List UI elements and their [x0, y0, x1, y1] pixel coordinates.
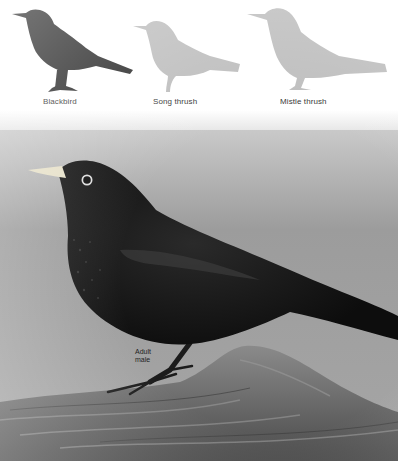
blackbird-silhouette [8, 0, 138, 95]
caption-line-2: male [135, 356, 151, 364]
field-guide-page: Blackbird Song thrush Mistle thrush [0, 0, 398, 461]
song-thrush-silhouette [130, 0, 245, 100]
mistle-thrush-silhouette [245, 0, 395, 100]
mistle-thrush-label: Mistle thrush [280, 97, 327, 106]
blackbird-label: Blackbird [43, 97, 77, 106]
blackbird-photo [0, 130, 398, 461]
caption-line-1: Adult [135, 348, 151, 356]
song-thrush-label: Song thrush [153, 97, 197, 106]
photo-caption: Adult male [135, 348, 151, 364]
